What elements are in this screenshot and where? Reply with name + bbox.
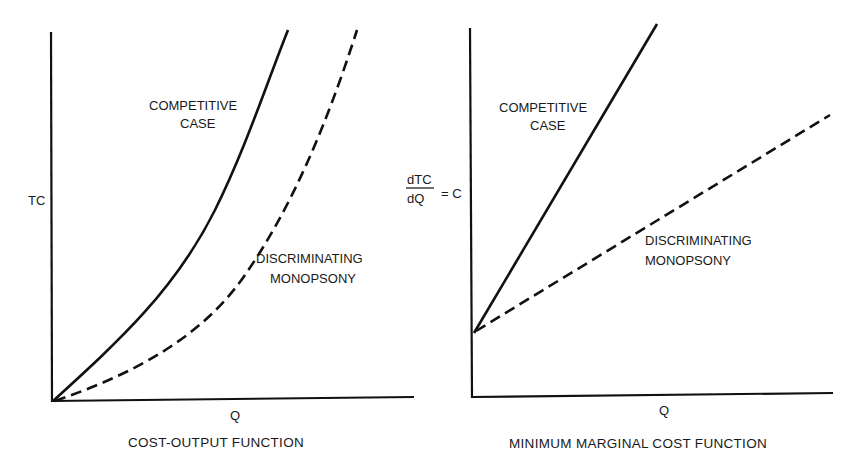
right-competitive-label-2: CASE	[530, 118, 566, 133]
right-competitive-line	[474, 24, 657, 333]
right-y-label: dTC dQ = C	[406, 172, 462, 206]
left-competitive-label-2: CASE	[180, 116, 216, 131]
left-chart-title: COST-OUTPUT FUNCTION	[128, 435, 304, 450]
right-y-axis	[470, 28, 472, 398]
right-x-label: Q	[659, 403, 669, 418]
right-monopsony-line	[476, 115, 830, 331]
cost-output-chart: TC Q COMPETITIVE CASE DISCRIMINATING MON…	[28, 30, 414, 450]
right-chart-title: MINIMUM MARGINAL COST FUNCTION	[509, 436, 767, 451]
marginal-cost-chart: dTC dQ = C Q COMPETITIVE CASE DISCRIMINA…	[406, 24, 833, 451]
right-x-axis	[472, 393, 833, 397]
right-y-label-numerator: dTC	[407, 172, 432, 187]
left-x-axis	[51, 397, 414, 401]
left-monopsony-curve	[55, 30, 357, 401]
right-monopsony-label-2: MONOPSONY	[645, 253, 731, 268]
left-monopsony-label-2: MONOPSONY	[270, 271, 356, 286]
figure: TC Q COMPETITIVE CASE DISCRIMINATING MON…	[0, 0, 859, 475]
left-x-label: Q	[230, 408, 240, 423]
right-competitive-label-1: COMPETITIVE	[499, 100, 587, 115]
right-y-label-equals: = C	[441, 186, 462, 201]
right-y-label-denominator: dQ	[407, 191, 424, 206]
left-monopsony-label-1: DISCRIMINATING	[256, 251, 363, 266]
left-y-axis	[51, 32, 52, 402]
left-competitive-label-1: COMPETITIVE	[149, 98, 237, 113]
left-y-label: TC	[28, 193, 45, 208]
right-monopsony-label-1: DISCRIMINATING	[645, 233, 752, 248]
